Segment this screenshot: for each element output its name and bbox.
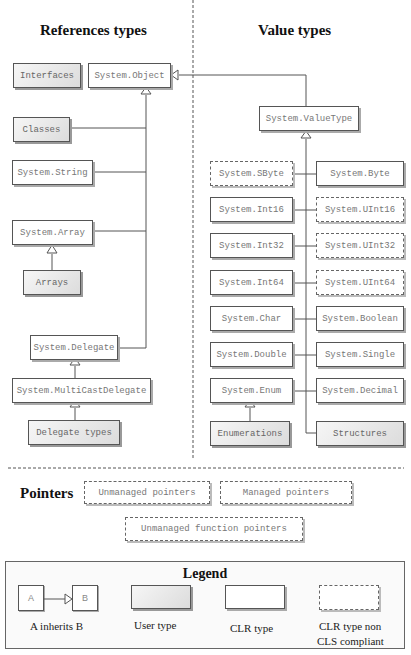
reference-types-heading: References types [40,22,147,39]
classes-box: Classes [13,117,70,142]
system-int64-box: System.Int64 [210,270,293,295]
system-array-box: System.Array [12,220,93,245]
legend-clr-type-swatch [225,585,285,609]
inherit-arrow-valuetype [171,70,178,80]
inherit-arrow-array [47,245,57,253]
system-uint64-box: System.UInt64 [316,270,404,295]
legend-inherit-arrow-icon [44,592,74,606]
interfaces-box: Interfaces [13,63,81,88]
managed-pointers-box: Managed pointers [220,481,352,504]
unmanaged-pointers-box: Unmanaged pointers [84,481,210,504]
legend-panel: Legend A B A inherits B User type CLR ty… [5,561,405,649]
system-single-box: System.Single [316,342,404,367]
pointers-heading: Pointers [20,485,73,502]
unmanaged-function-pointers-box: Unmanaged function pointers [125,517,303,541]
enumerations-box: Enumerations [210,421,290,446]
system-double-box: System.Double [210,342,293,367]
legend-box-a: A [18,585,44,611]
system-string-box: System.String [12,160,93,185]
system-valuetype-box: System.ValueType [259,106,359,131]
system-delegate-box: System.Delegate [30,335,118,360]
inherit-arrow-valuetype-trunk [301,131,311,138]
value-types-heading: Value types [258,22,331,39]
arrays-box: Arrays [23,270,81,295]
legend-box-b: B [72,585,98,611]
legend-title: Legend [6,566,404,582]
system-int16-box: System.Int16 [210,197,293,222]
delegate-types-box: Delegate types [28,420,120,445]
system-uint32-box: System.UInt32 [316,233,404,258]
system-multicastdelegate-box: System.MultiCastDelegate [12,378,151,403]
system-decimal-box: System.Decimal [316,378,404,403]
system-sbyte-box: System.SByte [210,161,293,186]
valuetype-to-object-connector [179,75,306,106]
system-enum-box: System.Enum [210,378,293,403]
system-int32-box: System.Int32 [210,233,293,258]
inherit-arrow-object [141,87,151,94]
legend-non-cls-caption-line2: CLS compliant [317,632,384,650]
system-boolean-box: System.Boolean [316,306,404,331]
system-byte-box: System.Byte [316,161,404,186]
structures-box: Structures [316,421,404,446]
system-uint16-box: System.UInt16 [316,197,404,222]
legend-inherits-caption: A inherits B [30,617,83,635]
legend-user-type-swatch [131,585,191,609]
legend-clr-type-caption: CLR type [230,619,273,637]
system-object-box: System.Object [88,63,171,88]
system-char-box: System.Char [210,306,293,331]
legend-user-type-caption: User type [134,616,176,634]
legend-non-cls-swatch [319,585,379,610]
